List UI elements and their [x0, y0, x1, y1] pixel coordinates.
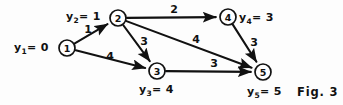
node-label-2: 2: [115, 13, 122, 24]
edge-weight-1-3: 4: [106, 50, 114, 63]
figure-caption: Fig. 3: [297, 85, 338, 99]
edge-3-to-5: [166, 71, 251, 72]
node-potential-label-3: y3= 4: [139, 83, 174, 96]
node-label-4: 4: [225, 12, 232, 23]
node-potential-label-4: y4= 3: [239, 11, 274, 24]
edge-weight-4-5: 3: [250, 36, 258, 49]
node-label-1: 1: [64, 43, 71, 54]
edge-weight-1-2: 1: [84, 23, 92, 36]
edge-weight-2-4: 2: [170, 3, 178, 16]
edge-2-to-4: [127, 17, 216, 18]
figure-container: 12345 1432433 y1= 0 y2= 1 y3= 4 y4= 3 y5…: [0, 0, 343, 105]
node-potential-label-5: y5= 5: [247, 85, 282, 98]
edge-weight-2-3: 3: [140, 35, 148, 48]
edge-weight-3-5: 3: [210, 57, 218, 70]
edge-weight-2-5: 4: [192, 33, 200, 46]
node-label-3: 3: [154, 66, 161, 77]
node-potential-label-1: y1= 0: [14, 41, 49, 54]
node-label-5: 5: [260, 67, 267, 78]
node-potential-label-2: y2= 1: [66, 10, 101, 23]
